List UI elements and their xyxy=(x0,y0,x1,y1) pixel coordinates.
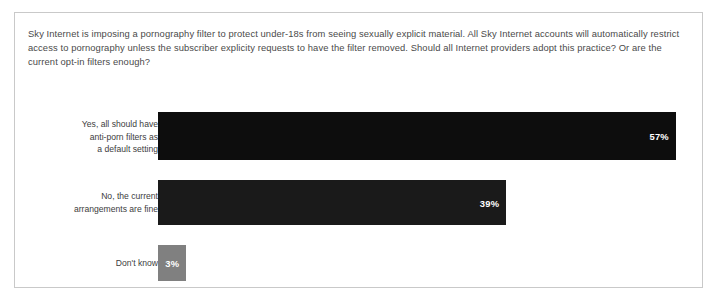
bar-rect: 3% xyxy=(158,245,186,281)
bar-row: Don't know 3% xyxy=(15,245,702,281)
bar-value-label: 3% xyxy=(165,258,179,269)
poll-question: Sky Internet is imposing a pornography f… xyxy=(28,27,688,70)
bar-label-line: arrangements are fine xyxy=(25,203,158,216)
bar-row: No, the current arrangements are fine 39… xyxy=(15,180,702,225)
bar-rect: 57% xyxy=(158,112,676,160)
bar-row: Yes, all should have anti-porn filters a… xyxy=(15,112,702,160)
bar-label: Yes, all should have anti-porn filters a… xyxy=(25,118,158,156)
bar-label-line: Don't know xyxy=(25,257,158,270)
bar-label-line: anti-porn filters as xyxy=(25,131,158,144)
bar-label: No, the current arrangements are fine xyxy=(25,190,158,215)
bar-chart: Yes, all should have anti-porn filters a… xyxy=(15,85,702,289)
bar-label-line: a default setting xyxy=(25,143,158,156)
bar-value-label: 57% xyxy=(650,131,669,142)
bar-label-line: No, the current xyxy=(25,190,158,203)
bar-rect: 39% xyxy=(158,180,506,225)
bar-label-line: Yes, all should have xyxy=(25,118,158,131)
bar-value-label: 39% xyxy=(480,197,499,208)
bar-track: 3% xyxy=(158,245,702,281)
bar-track: 57% xyxy=(158,112,702,160)
bar-track: 39% xyxy=(158,180,702,225)
poll-card: Sky Internet is imposing a pornography f… xyxy=(14,12,703,288)
bar-label: Don't know xyxy=(25,257,158,270)
